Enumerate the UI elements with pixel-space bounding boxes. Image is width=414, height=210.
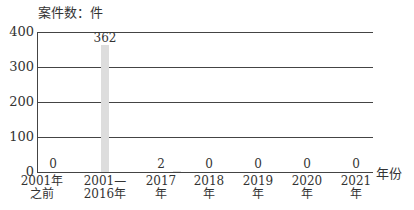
y-axis	[37, 32, 38, 173]
x-axis-title: 年份	[376, 163, 402, 182]
value-label: 0	[238, 157, 278, 171]
y-tick: 200	[0, 94, 34, 109]
chart: 案件数：件 400 300 200 100 0 0 362 2 0 0 0 0 …	[0, 0, 414, 210]
gridline	[37, 67, 373, 68]
y-tick: 400	[0, 24, 34, 39]
value-label: 0	[33, 157, 73, 171]
y-tick: 100	[0, 129, 34, 144]
gridline	[37, 102, 373, 103]
bar-2001-2016	[101, 45, 109, 172]
value-label: 0	[189, 157, 229, 171]
gridline	[37, 137, 373, 138]
x-label: 2001—2016年	[75, 175, 135, 201]
value-label: 2	[141, 157, 181, 171]
y-axis-title: 案件数：件	[38, 2, 103, 21]
x-axis	[37, 172, 373, 173]
value-label: 0	[287, 157, 327, 171]
y-tick: 300	[0, 59, 34, 74]
value-label: 0	[336, 157, 376, 171]
x-label: 2001年之前	[12, 175, 72, 201]
value-label: 362	[85, 31, 125, 45]
bar-2017	[173, 171, 181, 172]
